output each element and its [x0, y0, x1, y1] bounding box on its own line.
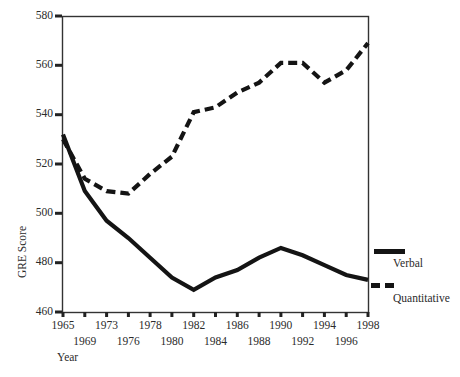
- x-tick-label: 1984: [204, 335, 227, 347]
- y-tick: [55, 163, 62, 166]
- y-tick-label: 580: [17, 9, 53, 21]
- y-tick: [55, 64, 62, 67]
- gre-score-chart: 460480500520540560580 196519691973197619…: [0, 0, 460, 377]
- verbal-line: [63, 134, 368, 289]
- x-tick-label: 1994: [313, 319, 336, 331]
- y-tick-label: 560: [17, 58, 53, 70]
- x-tick: [279, 312, 282, 317]
- x-tick: [236, 312, 239, 317]
- x-tick-label: 1969: [73, 335, 96, 347]
- x-tick-label: 1990: [269, 319, 292, 331]
- y-tick: [55, 113, 62, 116]
- y-tick-label: 460: [17, 305, 53, 317]
- x-tick-label: 1973: [95, 319, 118, 331]
- x-tick: [105, 312, 108, 317]
- x-tick-label: 1986: [226, 319, 249, 331]
- y-tick-label: 520: [17, 157, 53, 169]
- y-tick: [55, 212, 62, 215]
- x-tick: [83, 312, 86, 317]
- quantitative-line: [63, 43, 368, 194]
- verbal-line-swatch: [374, 249, 405, 254]
- x-tick: [214, 312, 217, 317]
- x-tick: [323, 312, 326, 317]
- x-tick-label: 1976: [117, 335, 140, 347]
- x-tick-label: 1965: [52, 319, 75, 331]
- y-tick: [55, 261, 62, 264]
- x-tick: [62, 312, 65, 317]
- x-tick-label: 1980: [160, 335, 183, 347]
- x-tick-label: 1992: [291, 335, 314, 347]
- legend-label-verbal: Verbal: [393, 257, 423, 269]
- y-tick-label: 500: [17, 206, 53, 218]
- y-tick-label: 540: [17, 107, 53, 119]
- x-tick-label: 1996: [335, 335, 358, 347]
- x-tick: [345, 312, 348, 317]
- y-axis-ticks: [55, 15, 62, 314]
- x-axis-title: Year: [57, 351, 78, 363]
- x-tick: [192, 312, 195, 317]
- x-tick-label: 1978: [139, 319, 162, 331]
- x-tick-label: 1998: [357, 319, 380, 331]
- x-tick-label: 1982: [182, 319, 205, 331]
- quantitative-line-swatch: [371, 283, 398, 288]
- plot-frame: [63, 17, 369, 313]
- x-tick: [149, 312, 152, 317]
- x-tick-label: 1988: [248, 335, 271, 347]
- x-tick: [301, 312, 304, 317]
- y-tick: [55, 15, 62, 18]
- x-tick: [367, 312, 370, 317]
- x-axis-ticks: [62, 312, 370, 317]
- x-tick: [127, 312, 130, 317]
- x-tick: [258, 312, 261, 317]
- x-tick: [170, 312, 173, 317]
- legend-label-quantitative: Quantitative: [393, 292, 450, 304]
- y-tick: [55, 311, 62, 314]
- y-axis-title: GRE Score: [16, 226, 28, 278]
